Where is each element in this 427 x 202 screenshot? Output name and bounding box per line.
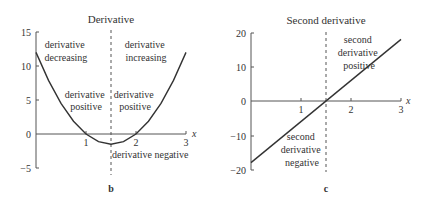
y-tick-label: 15 <box>21 27 31 38</box>
chart-title: Derivative <box>88 13 135 25</box>
y-tick-label: 0 <box>241 96 246 107</box>
x-tick-label: 2 <box>134 137 139 148</box>
x-axis-label: x <box>191 128 197 139</box>
second-derivative-chart: Second derivative 20 10 0 −10 −20 1 2 3 … <box>230 14 411 194</box>
y-tick-label: 5 <box>26 95 31 106</box>
x-tick-label: 1 <box>299 104 304 115</box>
annotation: derivative positive <box>114 89 156 112</box>
annotation: derivative negative <box>112 149 189 160</box>
annotation: second derivative negative <box>281 131 323 168</box>
figure: Derivative 15 10 5 0 −5 1 2 3 x derivati… <box>0 0 427 202</box>
annotation: second derivative positive <box>338 34 380 71</box>
x-tick-label: 3 <box>399 104 404 115</box>
x-tick-label: 1 <box>84 137 89 148</box>
annotation: derivative increasing <box>125 39 167 63</box>
annotation: derivative positive <box>65 89 107 112</box>
panel-label: b <box>108 183 114 194</box>
y-tick-label: 10 <box>236 62 246 73</box>
x-tick-label: 3 <box>184 137 189 148</box>
derivative-chart: Derivative 15 10 5 0 −5 1 2 3 x derivati… <box>20 8 197 194</box>
y-tick-label: −20 <box>230 165 246 176</box>
x-tick-label: 2 <box>349 104 354 115</box>
panel-label: c <box>324 183 329 194</box>
chart-title: Second derivative <box>286 14 365 26</box>
x-axis-label: x <box>405 95 411 106</box>
y-tick-label: −5 <box>20 163 31 174</box>
y-tick-label: 10 <box>21 61 31 72</box>
y-tick-label: 0 <box>26 129 31 140</box>
y-tick-label: 20 <box>236 28 246 39</box>
annotation: derivative decreasing <box>45 39 88 63</box>
y-tick-label: −10 <box>230 131 246 142</box>
